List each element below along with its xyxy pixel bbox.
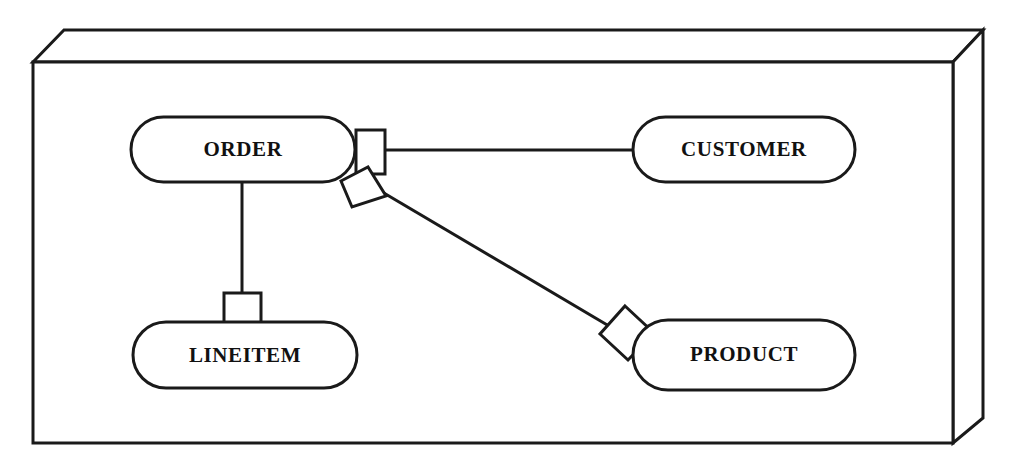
entity-lineitem-label: LINEITEM [189,343,301,367]
entity-product-label: PRODUCT [690,342,798,366]
order-customer-square-connector [356,130,385,174]
frame-top-face [33,30,983,62]
entity-customer[interactable]: CUSTOMER [633,117,855,182]
entity-product[interactable]: PRODUCT [633,320,855,390]
entity-relationship-diagram: ORDER CUSTOMER LINEITEM PRODUCT [0,0,1018,472]
entity-order[interactable]: ORDER [131,117,355,182]
entity-order-label: ORDER [204,137,283,161]
entity-lineitem[interactable]: LINEITEM [133,322,357,388]
frame-right-face [953,30,983,443]
order-lineitem-square-connector [224,293,261,324]
entity-customer-label: CUSTOMER [681,137,807,161]
diagram-canvas: ORDER CUSTOMER LINEITEM PRODUCT [0,0,1018,472]
